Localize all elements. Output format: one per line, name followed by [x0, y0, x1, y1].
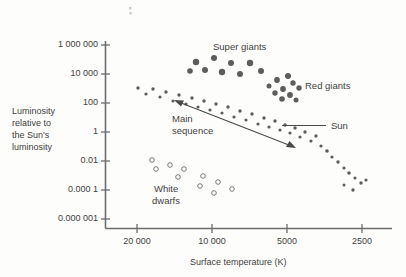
series-super-giants	[187, 55, 264, 77]
sun-label: Sun	[331, 120, 348, 132]
main-sequence-label-line-2: sequence	[172, 125, 213, 137]
hr-diagram-figure: 1 000 000 10 000 100 1 0.01 0.000 1 0.00…	[0, 0, 406, 277]
x-tick-label-2500: 2500	[332, 236, 392, 248]
y-tick-label-0-000001: 0.000 001	[14, 213, 98, 225]
y-tick-label-0-0001: 0.000 1	[20, 184, 98, 196]
y-tick-label-10000: 10 000	[20, 68, 98, 80]
series-main-sequence	[136, 86, 367, 191]
white-dwarfs-label-line-1: White	[154, 183, 178, 195]
x-tick-label-20000: 20 000	[107, 236, 167, 248]
y-axis-title-line-4: luminosity	[12, 142, 52, 154]
y-tick-label-0-01: 0.01	[20, 155, 98, 167]
axis-lines	[106, 41, 393, 229]
x-axis-title: Surface temperature (K)	[190, 257, 287, 269]
x-tick-label-5000: 5000	[257, 236, 317, 248]
y-axis-title-line-3: the Sun's	[12, 130, 49, 142]
super-giants-label: Super giants	[213, 41, 266, 53]
white-dwarfs-label-line-2: dwarfs	[152, 195, 180, 207]
y-tick-label-1000000: 1 000 000	[20, 39, 98, 51]
scan-artifact-specks	[129, 7, 132, 14]
main-sequence-label-line-1: Main	[172, 113, 193, 125]
red-giants-label: Red giants	[305, 80, 350, 92]
series-red-giants	[267, 73, 302, 103]
y-axis-title-line-2: relative to	[12, 118, 51, 130]
x-tick-label-10000: 10 000	[182, 236, 242, 248]
y-axis-title-line-1: Luminosity	[12, 106, 55, 118]
